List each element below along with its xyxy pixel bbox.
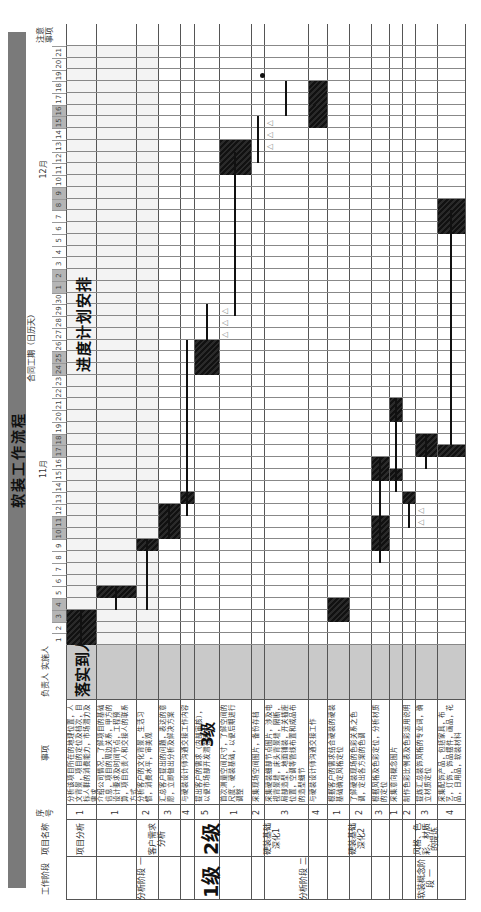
day-divider: [66, 374, 465, 375]
gantt-connector: [408, 504, 410, 527]
project-name: 风格、色彩、材质的提炼: [389, 820, 465, 857]
day-cell: 6: [52, 575, 66, 587]
milestone-triangle-icon: △: [265, 132, 274, 138]
day-divider: [66, 562, 465, 563]
task-matter: 介绍公司情况，了解项目的基础信息，项目的周边关系，甲方的设计要求及时间节点，工程…: [96, 700, 136, 805]
gantt-connector: [115, 586, 117, 609]
task-seq: 4: [180, 805, 194, 820]
day-cell: 18: [52, 81, 66, 93]
milestone-triangle-icon: △: [416, 519, 425, 525]
day-divider: [66, 468, 465, 469]
day-cell: 5: [52, 586, 66, 598]
milestone-dot-icon: [260, 73, 265, 78]
task-seq: 1: [327, 805, 349, 820]
task-seq: 3: [371, 805, 389, 820]
task-seq: 1: [96, 805, 136, 820]
gantt-bar: [309, 105, 327, 128]
day-cell: 4: [52, 246, 66, 258]
day-divider: [66, 480, 465, 481]
day-cell: 8: [52, 199, 66, 211]
work-stage: 软装概念阶段 一: [389, 857, 465, 900]
day-divider: [66, 139, 465, 140]
task-matter: 汇总客户提出的问题，表达的意愿，立即做出分析及解决方案: [158, 700, 180, 805]
day-divider: [66, 644, 465, 645]
day-cell: 6: [52, 222, 66, 234]
day-divider: [66, 421, 465, 422]
day-cell: 7: [52, 563, 66, 575]
gantt-connector: [186, 340, 188, 516]
day-divider: [66, 127, 465, 128]
milestone-triangle-icon: △: [265, 144, 274, 150]
day-cell: 2: [52, 622, 66, 634]
day-divider: [66, 256, 465, 257]
gantt-bar: [328, 598, 349, 621]
day-cell: 3: [52, 257, 66, 269]
day-cell: 10: [52, 175, 66, 187]
gantt-connector: [379, 457, 381, 563]
day-divider: [66, 515, 465, 516]
task-matter: 采集意向概念图片: [389, 700, 402, 805]
gantt-connector: [285, 81, 287, 116]
task-matter: 采集配饰产品，包括家具，布艺，灯饰，饰品摆件，画品，花品，日用品，软装材料: [437, 700, 465, 805]
gantt-connector: [168, 504, 170, 539]
day-cell: 20: [52, 410, 66, 422]
day-divider: [66, 233, 465, 234]
header-implementer: 实施人: [26, 645, 66, 670]
day-cell: 19: [52, 70, 66, 82]
gantt-bar: [195, 340, 219, 375]
day-divider: [66, 397, 465, 398]
workflow-document: 软装工作流程 工作阶段 项目名称 序号 事项 负责人 实施人 注意事项 合同工期…: [0, 0, 481, 912]
milestone-triangle-icon: △: [220, 331, 229, 337]
day-divider: [66, 527, 465, 528]
day-divider: [66, 80, 465, 81]
day-cell: 5: [52, 234, 66, 246]
header-seq-no: 序号: [26, 805, 66, 820]
task-seq: 2: [251, 805, 264, 820]
project-name: 硬装基础深化1: [219, 820, 327, 857]
day-cell: 9: [52, 187, 66, 199]
day-cell: 7: [52, 210, 66, 222]
task-seq: 3: [415, 805, 437, 820]
month-label-nov: 11月: [38, 293, 50, 645]
task-seq: 2: [402, 805, 415, 820]
day-divider: [66, 350, 465, 351]
day-cell: 20: [52, 58, 66, 70]
day-divider: [66, 69, 465, 70]
milestone-triangle-icon: △: [220, 320, 229, 326]
day-cell: 13: [52, 140, 66, 152]
day-cell: 12: [52, 152, 66, 164]
day-divider: [66, 362, 465, 363]
day-divider: [66, 339, 465, 340]
day-cell: 4: [52, 598, 66, 610]
day-cell: 17: [52, 93, 66, 105]
task-matter: 与硬装设计师沟通交接工作: [308, 700, 327, 805]
day-divider: [66, 609, 465, 610]
month-label-dec: 12月: [38, 46, 50, 293]
gantt-connector: [425, 434, 427, 469]
day-cell: 14: [52, 128, 66, 140]
day-cell: 14: [52, 481, 66, 493]
day-cell: 18: [52, 434, 66, 446]
gantt-bar: [438, 445, 465, 457]
day-cell: 29: [52, 304, 66, 316]
task-seq: 4: [308, 805, 327, 820]
day-divider: [66, 538, 465, 539]
task-seq: 1: [219, 805, 251, 820]
day-divider: [66, 245, 465, 246]
day-cell: 24: [52, 363, 66, 375]
day-divider: [66, 280, 465, 281]
day-divider: [66, 444, 465, 445]
day-cell: 27: [52, 328, 66, 340]
project-name: 硬装基础深化2: [327, 820, 389, 857]
contract-period-label: 合同工期（日历天）: [26, 46, 38, 645]
gantt-bar: [309, 81, 327, 104]
day-divider: [66, 209, 465, 210]
header-work-stage: 工作阶段: [26, 857, 66, 900]
level1-overlay: 1级: [196, 858, 222, 898]
day-divider: [66, 151, 465, 152]
task-matter: 提炼汇总装饰风格的专业词，确立材质定位: [415, 700, 437, 805]
day-divider: [66, 174, 465, 175]
gantt-bar: [403, 492, 415, 504]
day-cell: 2: [52, 269, 66, 281]
header-matters: 事项: [26, 700, 66, 805]
